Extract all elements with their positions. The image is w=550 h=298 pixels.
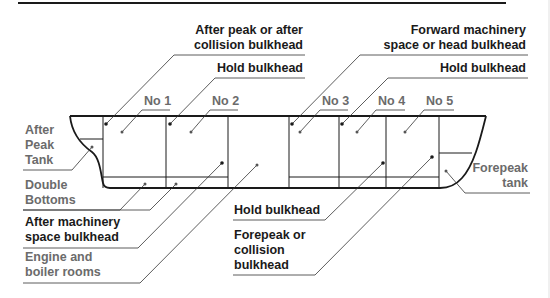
label-hold-bulkhead-top-2: Hold bulkhead xyxy=(360,61,526,76)
label-hold-no-4: No 4 xyxy=(378,94,405,109)
bulkheads xyxy=(80,116,472,188)
label-forward-machinery-bulkhead: Forward machinery space or head bulkhead xyxy=(360,23,526,53)
label-engine-boiler-rooms: Engine and boiler rooms xyxy=(25,250,101,280)
leader-dots xyxy=(104,122,434,165)
label-hold-bulkhead-top-1: Hold bulkhead xyxy=(150,61,303,76)
label-forepeak-tank: Forepeak tank xyxy=(470,161,528,191)
label-after-machinery-bulkhead: After machinery space bulkhead xyxy=(25,215,120,245)
label-hold-no-3: No 3 xyxy=(322,94,349,109)
label-after-peak-bulkhead: After peak or after collision bulkhead xyxy=(150,23,303,53)
label-hold-bulkhead-bottom: Hold bulkhead xyxy=(234,203,320,218)
label-hold-no-1: No 1 xyxy=(144,94,171,109)
label-forepeak-collision-bulkhead: Forepeak or collision bulkhead xyxy=(234,228,306,273)
label-double-bottoms: Double Bottoms xyxy=(25,178,76,208)
ship-compartment-diagram: After peak or after collision bulkhead H… xyxy=(0,0,550,298)
label-hold-no-5: No 5 xyxy=(426,94,453,109)
label-hold-no-2: No 2 xyxy=(212,94,239,109)
label-after-peak-tank: After Peak Tank xyxy=(25,123,54,168)
